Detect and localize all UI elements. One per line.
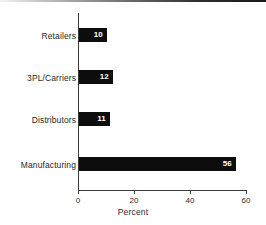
x-tick-40 [190,190,191,194]
x-tick-label-0: 0 [76,196,81,205]
x-tick-label-20: 20 [129,196,138,205]
x-tick-0 [78,190,79,194]
bar-value-manufacturing: 56 [223,160,232,168]
bar-row-manufacturing: Manufacturing 56 [0,157,266,171]
bar-3pl-carriers: 12 [79,70,113,84]
bar-value-distributors: 11 [97,115,106,123]
x-tick-label-60: 60 [241,196,250,205]
x-axis-title: Percent [0,207,266,217]
chart-canvas: 0 20 40 60 Retailers 10 3PL/Carriers 12 … [0,0,266,225]
plot-area: 0 20 40 60 Retailers 10 3PL/Carriers 12 … [0,0,266,225]
bar-value-3pl-carriers: 12 [100,73,109,81]
bar-retailers: 10 [79,28,107,42]
x-tick-60 [246,190,247,194]
bar-row-distributors: Distributors 11 [0,112,266,126]
category-label-retailers: Retailers [0,31,76,41]
category-label-3pl-carriers: 3PL/Carriers [0,73,76,83]
x-tick-20 [134,190,135,194]
bar-row-retailers: Retailers 10 [0,28,266,42]
bar-value-retailers: 10 [94,31,103,39]
bar-row-3pl-carriers: 3PL/Carriers 12 [0,70,266,84]
bar-distributors: 11 [79,112,110,126]
x-tick-label-40: 40 [185,196,194,205]
category-label-distributors: Distributors [0,115,76,125]
x-axis-line [78,190,247,191]
category-label-manufacturing: Manufacturing [0,160,76,170]
bar-manufacturing: 56 [79,157,236,171]
